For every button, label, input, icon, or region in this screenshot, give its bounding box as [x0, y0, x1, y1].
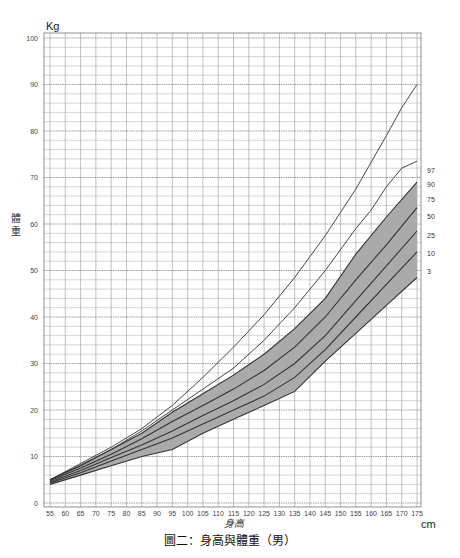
svg-text:150: 150: [335, 510, 347, 517]
percentile-label-10: 10: [427, 250, 435, 257]
svg-text:體: 體: [11, 213, 21, 224]
svg-text:140: 140: [304, 510, 316, 517]
svg-text:160: 160: [365, 510, 377, 517]
svg-text:60: 60: [61, 510, 69, 517]
chart-caption: 圖二：身高與體重（男）: [164, 533, 296, 548]
x-axis-title: 身高: [224, 518, 246, 529]
svg-text:65: 65: [77, 510, 85, 517]
percentile-label-97: 97: [427, 167, 435, 174]
svg-text:70: 70: [92, 510, 100, 517]
svg-text:75: 75: [107, 510, 115, 517]
svg-text:40: 40: [30, 314, 38, 321]
svg-text:20: 20: [30, 407, 38, 414]
svg-text:70: 70: [30, 174, 38, 181]
svg-text:125: 125: [258, 510, 270, 517]
svg-text:0: 0: [34, 500, 38, 507]
y-unit-label: Kg: [46, 20, 59, 32]
svg-text:120: 120: [243, 510, 255, 517]
svg-text:重: 重: [11, 225, 21, 237]
svg-text:80: 80: [30, 128, 38, 135]
percentile-label-25: 25: [427, 232, 435, 239]
percentile-label-90: 90: [427, 181, 435, 188]
svg-text:110: 110: [213, 510, 224, 517]
svg-text:155: 155: [350, 510, 362, 517]
svg-text:10: 10: [30, 453, 38, 460]
svg-text:55: 55: [46, 510, 54, 517]
growth-chart: 0102030405060708090100 55606570758085909…: [0, 0, 460, 558]
percentile-label-50: 50: [427, 213, 435, 220]
y-axis-ticks: 0102030405060708090100: [26, 35, 38, 507]
svg-text:95: 95: [168, 510, 176, 517]
svg-text:105: 105: [197, 510, 209, 517]
svg-text:90: 90: [153, 510, 161, 517]
svg-text:170: 170: [396, 510, 408, 517]
svg-text:100: 100: [182, 510, 194, 517]
svg-text:80: 80: [123, 510, 131, 517]
percentile-label-3: 3: [427, 268, 431, 275]
percentile-labels: 9790755025103: [427, 167, 435, 275]
x-unit-label: cm: [421, 518, 436, 530]
y-axis-title: 體 重: [11, 213, 21, 237]
svg-text:100: 100: [26, 35, 38, 42]
svg-text:50: 50: [30, 267, 38, 274]
svg-text:130: 130: [274, 510, 286, 517]
svg-text:90: 90: [30, 81, 38, 88]
percentile-label-75: 75: [427, 196, 435, 203]
x-axis-ticks: 5560657075808590951001051101151201251301…: [46, 510, 423, 517]
svg-text:85: 85: [138, 510, 146, 517]
svg-text:175: 175: [411, 510, 423, 517]
svg-text:145: 145: [319, 510, 331, 517]
svg-text:115: 115: [228, 510, 239, 517]
svg-text:30: 30: [30, 360, 38, 367]
svg-text:135: 135: [289, 510, 301, 517]
svg-text:165: 165: [381, 510, 393, 517]
svg-text:60: 60: [30, 221, 38, 228]
